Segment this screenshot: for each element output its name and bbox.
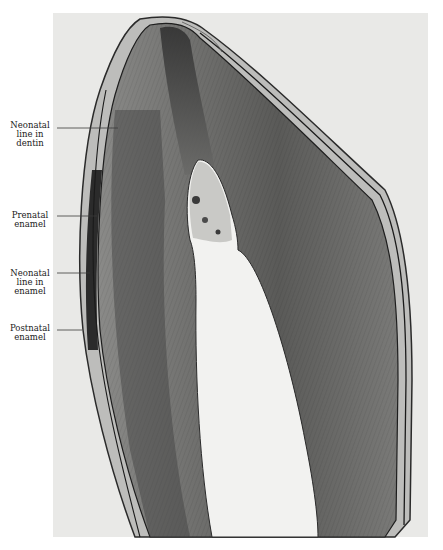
tooth-section-figure: Neonatal line in dentin Prenatal enamel … <box>0 0 443 550</box>
tooth-micrograph <box>0 0 443 550</box>
label-prenatal-enamel: Prenatal enamel <box>4 211 56 229</box>
label-postnatal-enamel: Postnatal enamel <box>4 324 56 342</box>
label-neonatal-line-enamel: Neonatal line in enamel <box>4 269 56 296</box>
label-neonatal-line-dentin: Neonatal line in dentin <box>4 121 56 148</box>
